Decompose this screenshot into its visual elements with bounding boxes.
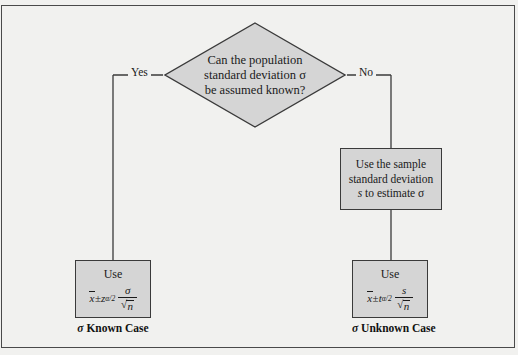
known-caption-text: Known Case: [86, 322, 148, 334]
unknown-caption-sigma: σ: [352, 322, 358, 334]
unknown-case-formula: x±tα/2 s n: [367, 285, 414, 312]
sample-deviation-box: Use the sample standard deviation s to e…: [340, 148, 442, 210]
known-fraction: σ n: [118, 285, 137, 312]
known-case-box: Use x±zα/2 σ n: [75, 260, 151, 318]
sqrt-icon: n: [121, 299, 134, 312]
unknown-fraction: s n: [395, 285, 414, 312]
branch-label-yes: Yes: [128, 66, 151, 78]
decision-line-2: standard deviation σ: [163, 68, 347, 83]
sample-line-3: s to estimate σ: [358, 186, 425, 201]
known-subscript: α/2: [105, 294, 115, 303]
decision-line-1: Can the population: [163, 53, 347, 68]
unknown-subscript: α/2: [382, 294, 392, 303]
known-denominator: n: [126, 300, 134, 312]
unknown-denominator-wrap: n: [395, 298, 414, 312]
unknown-numerator: s: [399, 285, 409, 297]
known-use-label: Use: [104, 267, 123, 282]
flowchart-figure: Can the population standard deviation σ …: [0, 0, 518, 355]
unknown-caption-text: Unknown Case: [361, 322, 435, 334]
sample-line-2: standard deviation: [349, 172, 434, 187]
unknown-xbar: x: [367, 292, 373, 304]
sample-line-1: Use the sample: [356, 157, 426, 172]
unknown-case-caption: σ Unknown Case: [352, 322, 428, 334]
known-case-formula: x±zα/2 σ n: [89, 285, 137, 312]
unknown-use-label: Use: [381, 267, 400, 282]
decision-text: Can the population standard deviation σ …: [163, 53, 347, 98]
known-xbar: x: [89, 292, 95, 304]
sqrt-icon: n: [398, 299, 411, 312]
decision-diamond: Can the population standard deviation σ …: [163, 21, 347, 129]
known-case-caption: σ Known Case: [75, 322, 151, 334]
known-denominator-wrap: n: [118, 298, 137, 312]
branch-label-no: No: [356, 66, 376, 78]
sample-line-3-rest: to estimate σ: [362, 187, 424, 199]
unknown-case-box: Use x±tα/2 s n: [352, 260, 428, 318]
decision-line-3: be assumed known?: [163, 83, 347, 98]
unknown-denominator: n: [403, 300, 411, 312]
known-numerator: σ: [122, 285, 133, 297]
known-caption-sigma: σ: [77, 322, 83, 334]
